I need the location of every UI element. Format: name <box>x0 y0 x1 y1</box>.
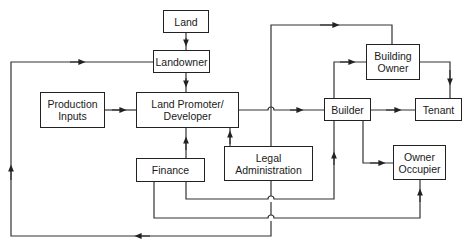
node-land: Land <box>163 10 209 33</box>
node-land-promoter-developer: Land Promoter/ Developer <box>136 92 239 128</box>
node-tenant: Tenant <box>415 98 462 121</box>
node-finance: Finance <box>136 158 205 182</box>
node-landowner: Landowner <box>153 50 210 73</box>
node-builder: Builder <box>324 98 371 121</box>
node-legal-administration: Legal Administration <box>224 146 313 181</box>
node-owner-occupier: Owner Occupier <box>393 145 446 180</box>
node-production-inputs: Production Inputs <box>40 92 105 128</box>
node-building-owner: Building Owner <box>366 44 420 80</box>
